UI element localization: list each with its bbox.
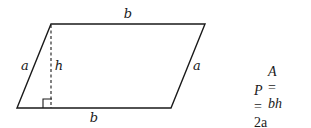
- parallelogram-shape: [17, 24, 205, 108]
- perimeter-lhs: P: [254, 83, 263, 98]
- area-eq: =: [268, 80, 276, 95]
- area-lhs: A: [268, 64, 277, 79]
- top-base-label: b: [124, 6, 132, 21]
- perimeter-eq: =: [254, 99, 262, 114]
- perimeter-term1: 2a: [254, 115, 267, 128]
- left-side-label: a: [21, 58, 29, 73]
- bottom-base-label: b: [90, 110, 98, 125]
- height-label: h: [55, 58, 63, 73]
- perimeter-formula: P = 2a + 2b: [240, 67, 268, 128]
- right-side-label: a: [193, 58, 201, 73]
- area-rhs: bh: [268, 96, 282, 111]
